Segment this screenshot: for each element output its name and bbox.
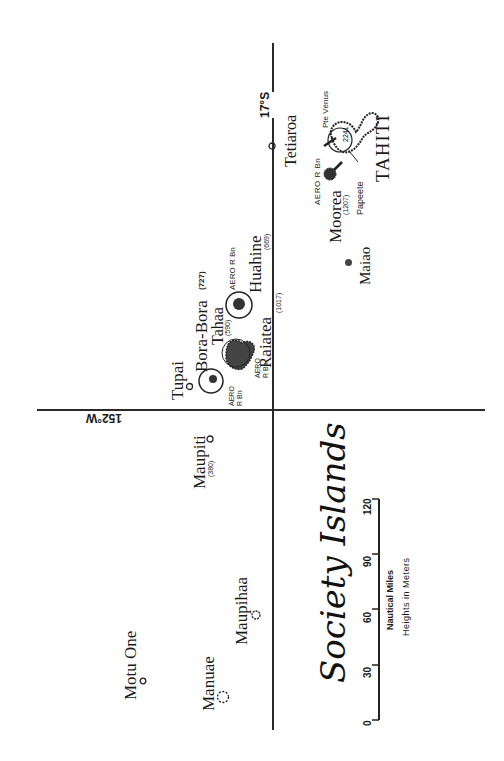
moorea-aero-note: AERO R Bn [313,158,322,205]
huahine-aero-note: AERO R Bn [228,247,237,290]
scale-tick-90: 90 [362,556,373,567]
raiatea-height: (1017) [275,293,282,313]
maiao-island-icon [344,258,353,267]
moorea-island-icon [322,160,346,184]
latitude-label: 17°S [256,92,274,118]
scale-tick-60: 60 [362,612,373,623]
tahaa-height: (590) [224,320,231,336]
latitude-line-17s-lower [272,160,274,730]
longitude-label: 152°W [86,411,122,425]
island-label-tetiaroa: Tetiaroa [282,115,300,167]
island-label-tahiti: TAHITI [372,114,394,182]
svg-text:2241: 2241 [342,126,349,142]
scale-unit-label: Nautical Miles [385,570,395,630]
moorea-height: (1207) [342,195,349,215]
bora-bora-aero-note: AERO R Bn [228,386,244,406]
raiatea-aero-note: AERO R Bn [254,358,270,378]
huahine-island-icon [224,290,254,320]
scale-tick-30: 30 [362,667,373,678]
place-label-pte-venus: Pte Vénus [321,91,330,128]
island-label-bora-bora: Bora-Bora [192,300,212,372]
tetiaroa-island-icon [268,142,276,150]
huahine-height: (669) [263,234,270,250]
scale-tick-120: 120 [362,498,373,515]
heights-note: Heights in Meters [401,557,411,636]
island-label-tupai: Tupai [168,361,188,400]
society-islands-map: 17°S 152°W Tetiaroa 2241 AERO R Bn Moore… [0,0,504,761]
island-label-manuae: Manuae [199,656,219,711]
bora-bora-height: (727) [197,271,206,290]
maupihaa-island-icon [251,610,261,620]
maupiti-height: (380) [207,461,214,477]
place-label-papeete: Papeete [355,181,365,215]
scale-tick-0: 0 [362,720,373,726]
island-label-maupihaa: Maupihaa [232,577,252,645]
island-label-maiao: Maiao [357,247,374,285]
island-label-motu-one: Motu One [121,631,141,700]
map-title: Society Islands [313,422,353,683]
